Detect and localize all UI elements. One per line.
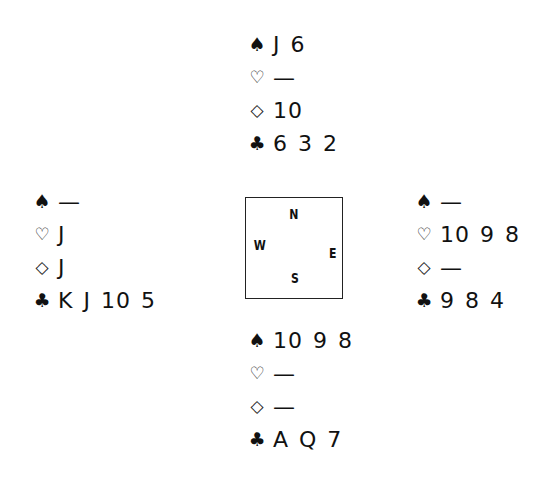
west-clubs-cards: K J 10 5: [58, 284, 156, 317]
spade-icon: ♠: [30, 185, 54, 218]
west-spades-row: ♠—: [30, 184, 156, 217]
east-diamonds-cards: —: [440, 251, 463, 284]
compass-box: N W E S: [245, 197, 343, 299]
heart-icon: ♡: [245, 61, 269, 94]
west-clubs-row: ♣K J 10 5: [30, 283, 156, 316]
west-hand: ♠— ♡J ◇J ♣K J 10 5: [30, 184, 156, 316]
east-spades-cards: —: [440, 185, 463, 218]
compass-north-label: N: [289, 206, 298, 222]
north-clubs-row: ♣6 3 2: [245, 126, 338, 159]
south-clubs-cards: A Q 7: [273, 423, 342, 456]
south-hearts-cards: —: [273, 357, 296, 390]
north-hearts-cards: —: [273, 61, 296, 94]
diamond-icon: ◇: [412, 251, 436, 284]
south-spades-row: ♠10 9 8: [245, 323, 353, 356]
east-spades-row: ♠—: [412, 184, 520, 217]
south-hearts-row: ♡—: [245, 356, 353, 389]
west-hearts-row: ♡J: [30, 217, 156, 250]
north-spades-row: ♠J 6: [245, 27, 338, 60]
north-spades-cards: J 6: [273, 28, 305, 61]
club-icon: ♣: [245, 127, 269, 160]
diamond-icon: ◇: [245, 390, 269, 423]
heart-icon: ♡: [412, 218, 436, 251]
east-hearts-cards: 10 9 8: [440, 218, 520, 251]
club-icon: ♣: [412, 284, 436, 317]
west-diamonds-cards: J: [58, 251, 66, 284]
east-hand: ♠— ♡10 9 8 ◇— ♣9 8 4: [412, 184, 520, 316]
compass-west-label: W: [254, 237, 266, 253]
south-clubs-row: ♣A Q 7: [245, 422, 353, 455]
south-hand: ♠10 9 8 ♡— ◇— ♣A Q 7: [245, 323, 353, 455]
north-diamonds-row: ◇10: [245, 93, 338, 126]
spade-icon: ♠: [245, 324, 269, 357]
compass-east-label: E: [329, 245, 336, 261]
north-clubs-cards: 6 3 2: [273, 127, 338, 160]
diamond-icon: ◇: [30, 251, 54, 284]
east-clubs-cards: 9 8 4: [440, 284, 505, 317]
west-hearts-cards: J: [58, 218, 66, 251]
club-icon: ♣: [245, 423, 269, 456]
diamond-icon: ◇: [245, 94, 269, 127]
north-diamonds-cards: 10: [273, 94, 303, 127]
west-diamonds-row: ◇J: [30, 250, 156, 283]
spade-icon: ♠: [245, 28, 269, 61]
east-hearts-row: ♡10 9 8: [412, 217, 520, 250]
west-spades-cards: —: [58, 185, 81, 218]
compass-south-label: S: [291, 270, 299, 286]
north-hearts-row: ♡—: [245, 60, 338, 93]
heart-icon: ♡: [245, 357, 269, 390]
east-clubs-row: ♣9 8 4: [412, 283, 520, 316]
spade-icon: ♠: [412, 185, 436, 218]
north-hand: ♠J 6 ♡— ◇10 ♣6 3 2: [245, 27, 338, 159]
south-spades-cards: 10 9 8: [273, 324, 353, 357]
south-diamonds-cards: —: [273, 390, 296, 423]
south-diamonds-row: ◇—: [245, 389, 353, 422]
club-icon: ♣: [30, 284, 54, 317]
east-diamonds-row: ◇—: [412, 250, 520, 283]
heart-icon: ♡: [30, 218, 54, 251]
